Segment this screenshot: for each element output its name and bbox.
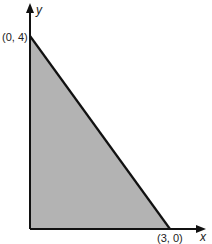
vertex-label-3-0: (3, 0)	[157, 233, 183, 244]
vertex-label-0-4: (0, 4)	[2, 32, 28, 43]
y-axis-arrow-icon	[26, 3, 34, 13]
x-axis-label: x	[200, 231, 206, 243]
y-axis-label: y	[36, 4, 42, 16]
